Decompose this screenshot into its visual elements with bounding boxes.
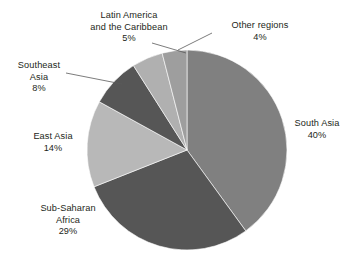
slice-label-southeast-asia-line2: Asia <box>4 72 74 84</box>
pie-chart-figure: Latin America and the Caribbean 5% Other… <box>0 0 356 267</box>
slice-label-latin-america-line2: and the Caribbean <box>72 22 186 34</box>
slice-value-other-regions: 4% <box>212 32 308 44</box>
slice-value-latin-america: 5% <box>72 33 186 45</box>
slice-label-latin-america: Latin America and the Caribbean 5% <box>72 10 186 45</box>
slice-label-south-asia: South Asia 40% <box>282 118 352 141</box>
pie-slice-group <box>87 50 287 250</box>
slice-label-latin-america-line1: Latin America <box>72 10 186 22</box>
slice-label-east-asia-line1: East Asia <box>16 131 90 143</box>
slice-label-southeast-asia-line1: Southeast <box>4 60 74 72</box>
slice-label-southeast-asia: Southeast Asia 8% <box>4 60 74 95</box>
slice-value-south-asia: 40% <box>282 130 352 142</box>
slice-value-sub-saharan-africa: 29% <box>22 226 114 238</box>
slice-label-sub-saharan-africa-line2: Africa <box>22 215 114 227</box>
slice-label-sub-saharan-africa-line1: Sub-Saharan <box>22 203 114 215</box>
leader-line-southeast-asia <box>66 73 122 84</box>
slice-label-other-regions: Other regions 4% <box>212 20 308 43</box>
slice-label-other-regions-line1: Other regions <box>212 20 308 32</box>
slice-value-east-asia: 14% <box>16 143 90 155</box>
slice-label-sub-saharan-africa: Sub-Saharan Africa 29% <box>22 203 114 238</box>
slice-label-south-asia-line1: South Asia <box>282 118 352 130</box>
slice-value-southeast-asia: 8% <box>4 83 74 95</box>
slice-label-east-asia: East Asia 14% <box>16 131 90 154</box>
